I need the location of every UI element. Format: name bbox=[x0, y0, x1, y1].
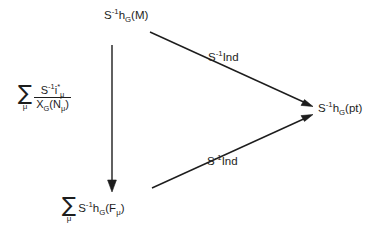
node-top-term: S-1hG(M) bbox=[104, 10, 148, 22]
node-bottom-base: S bbox=[78, 202, 86, 214]
arrow-bottom-to-right-label: S-1Ind bbox=[207, 156, 238, 168]
top-label-base: S bbox=[208, 51, 216, 63]
node-right-term: S-1hG(pt) bbox=[318, 103, 362, 115]
arrow-top-to-right-label: S-1Ind bbox=[208, 52, 239, 64]
arrow-bottom-to-right bbox=[152, 115, 313, 189]
fraction-numerator: S-1i*μ bbox=[34, 85, 71, 97]
arrow-top-to-right-line bbox=[150, 32, 308, 104]
side-expression-fraction: S-1i*μ XG(Nμ) bbox=[34, 85, 71, 110]
node-top-base: S bbox=[104, 9, 112, 21]
node-bottom: ∑ μ S-1hG(Fμ) bbox=[62, 196, 125, 222]
fraction-denominator: XG(Nμ) bbox=[34, 98, 71, 110]
node-top-exponent: -1 bbox=[112, 7, 119, 16]
diagram-canvas: S-1hG(M) S-1hG(pt) ∑ μ S-1hG(Fμ) ∑ μ S-1… bbox=[0, 0, 388, 237]
sigma-icon: ∑ bbox=[18, 85, 32, 102]
side-expression: ∑ μ S-1i*μ XG(Nμ) bbox=[18, 84, 71, 110]
arrow-top-to-bottom bbox=[108, 45, 117, 192]
numerator-base: S bbox=[41, 84, 48, 96]
arrow-bottom-to-right-head bbox=[301, 115, 313, 122]
node-top: S-1hG(M) bbox=[104, 10, 148, 22]
node-top-argument: (M) bbox=[131, 9, 148, 21]
bottom-label-operator: Ind bbox=[222, 155, 238, 167]
node-right-argument: (pt) bbox=[345, 102, 362, 114]
arrow-bottom-to-right-line bbox=[152, 117, 308, 188]
arrow-layer bbox=[0, 0, 388, 237]
denominator-paren-close: ) bbox=[65, 98, 69, 110]
top-label-operator: Ind bbox=[223, 51, 239, 63]
node-right-base: S bbox=[318, 102, 326, 114]
node-bottom-term: S-1hG(Fμ) bbox=[78, 203, 124, 215]
arrow-top-to-bottom-head bbox=[108, 180, 117, 192]
top-label-exponent: -1 bbox=[216, 49, 223, 58]
bottom-label-base: S bbox=[207, 155, 215, 167]
sigma-icon: ∑ bbox=[62, 197, 76, 214]
numerator-exponent: -1 bbox=[48, 82, 55, 91]
side-expression-summation: ∑ μ bbox=[18, 85, 32, 111]
node-bottom-exponent: -1 bbox=[86, 201, 93, 210]
arrow-top-to-right bbox=[150, 32, 313, 107]
denominator-symbol: X bbox=[36, 98, 43, 110]
arrow-top-to-right-head bbox=[301, 100, 313, 107]
node-bottom-paren-close: ) bbox=[121, 202, 125, 214]
node-right-exponent: -1 bbox=[326, 100, 333, 109]
denominator-argument-symbol: N bbox=[53, 98, 61, 110]
bottom-label-exponent: -1 bbox=[215, 153, 222, 162]
node-bottom-summation: ∑ μ bbox=[62, 197, 76, 223]
node-right: S-1hG(pt) bbox=[318, 103, 362, 115]
